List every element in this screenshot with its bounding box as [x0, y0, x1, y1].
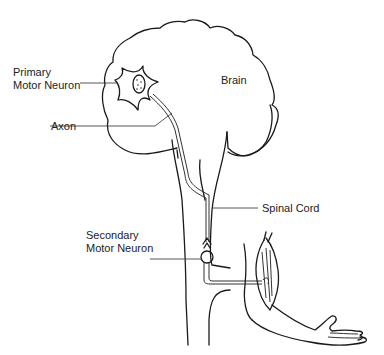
diagram-drawing: [0, 0, 384, 355]
primary-neuron-nucleus: [133, 75, 145, 93]
brain-stem-right: [211, 132, 231, 268]
brain-outline: [102, 20, 278, 200]
label-spinal-cord: Spinal Cord: [262, 202, 319, 215]
spinal-column-lower: [209, 290, 230, 345]
synapse: [203, 238, 211, 248]
brain-stem-left: [172, 140, 188, 345]
forearm-bottom: [252, 320, 366, 345]
label-secondary-line2: Motor Neuron: [86, 242, 153, 255]
axon-inner: [153, 94, 209, 242]
label-brain: Brain: [221, 74, 247, 87]
motor-neuron-diagram: Primary Motor Neuron Axon Brain Spinal C…: [0, 0, 384, 355]
label-secondary-line1: Secondary: [86, 229, 153, 242]
label-primary-line1: Primary: [13, 66, 80, 79]
muscle-tendon-top: [264, 232, 272, 242]
forearm-top: [272, 305, 363, 340]
brain-stem-edge: [228, 105, 272, 156]
label-secondary-motor-neuron: Secondary Motor Neuron: [86, 229, 153, 255]
hand-fingers: [328, 333, 362, 338]
muscle-fibers: [262, 248, 272, 302]
primary-neuron-body: [115, 66, 158, 110]
axon-outer: [150, 96, 206, 242]
upper-arm-back: [244, 244, 252, 320]
label-primary-motor-neuron: Primary Motor Neuron: [13, 66, 80, 92]
nucleus-dots: [136, 79, 142, 90]
biceps-muscle: [256, 238, 279, 310]
label-primary-line2: Motor Neuron: [13, 79, 80, 92]
label-axon: Axon: [51, 120, 76, 133]
